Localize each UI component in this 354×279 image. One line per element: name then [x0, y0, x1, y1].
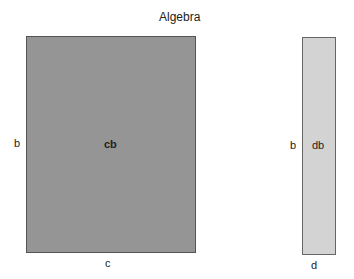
rectangle-cb-side-label: b	[14, 137, 20, 149]
rectangle-db-label: db	[312, 139, 324, 151]
diagram-title: Algebra	[0, 10, 354, 24]
rectangle-cb-label: cb	[104, 138, 117, 150]
rectangle-db-bottom-label: d	[311, 259, 317, 271]
rectangle-cb-bottom-label: c	[105, 257, 111, 269]
rectangle-db-side-label: b	[290, 139, 296, 151]
